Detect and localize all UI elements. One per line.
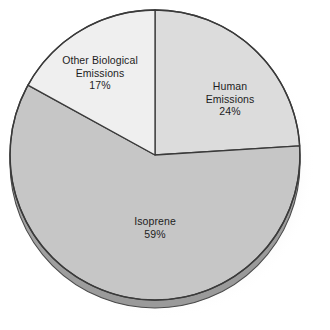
pie-slice-human-emissions	[155, 10, 300, 155]
pie-chart-figure: Other Biological Emissions 17% Human Emi…	[0, 0, 330, 330]
pie-chart-graphic	[0, 0, 330, 330]
pie-slices	[10, 10, 300, 300]
